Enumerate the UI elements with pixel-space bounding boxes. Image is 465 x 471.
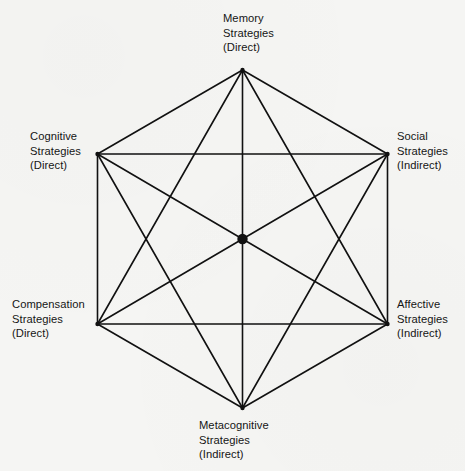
- vertex-label-compensation-line2: Strategies: [12, 312, 85, 327]
- vertex-label-social-line1: Social: [397, 129, 448, 144]
- vertex-node-compensation: [95, 322, 99, 326]
- vertex-node-affective: [385, 322, 389, 326]
- vertex-label-compensation-line1: Compensation: [12, 297, 85, 312]
- vertex-label-memory: Memory Strategies (Direct): [223, 11, 274, 55]
- vertex-label-metacognitive-line3: (Indirect): [199, 447, 269, 462]
- vertex-label-cognitive-line1: Cognitive: [30, 129, 81, 144]
- hexagon-graph-svg: [0, 0, 465, 471]
- edge-memory-social: [243, 70, 388, 154]
- vertex-label-compensation: Compensation Strategies (Direct): [12, 297, 85, 341]
- vertex-label-affective: Affective Strategies (Indirect): [397, 297, 448, 341]
- vertex-node-metacognitive: [240, 406, 244, 410]
- vertex-label-memory-line3: (Direct): [223, 40, 274, 55]
- vertex-label-cognitive-line3: (Direct): [30, 158, 81, 173]
- edge-cognitive-memory: [98, 70, 243, 154]
- vertex-label-affective-line3: (Indirect): [397, 326, 448, 341]
- edge-metacognitive-cognitive: [98, 154, 243, 408]
- center-node-dot: [237, 234, 247, 244]
- vertex-node-memory: [240, 68, 244, 72]
- vertex-label-metacognitive: Metacognitive Strategies (Indirect): [199, 418, 269, 462]
- edge-metacognitive-compensation: [98, 324, 243, 408]
- vertex-node-social: [385, 152, 389, 156]
- hexagon-diagram: Memory Strategies (Direct) Social Strate…: [0, 0, 465, 471]
- vertex-label-social-line3: (Indirect): [397, 158, 448, 173]
- vertex-label-cognitive: Cognitive Strategies (Direct): [30, 129, 81, 173]
- vertex-label-memory-line1: Memory: [223, 11, 274, 26]
- vertex-label-metacognitive-line1: Metacognitive: [199, 418, 269, 433]
- vertex-label-social: Social Strategies (Indirect): [397, 129, 448, 173]
- vertex-label-compensation-line3: (Direct): [12, 326, 85, 341]
- vertex-label-cognitive-line2: Strategies: [30, 144, 81, 159]
- vertex-label-social-line2: Strategies: [397, 144, 448, 159]
- vertex-label-affective-line2: Strategies: [397, 312, 448, 327]
- vertex-node-cognitive: [95, 152, 99, 156]
- vertex-label-memory-line2: Strategies: [223, 26, 274, 41]
- edge-affective-metacognitive: [243, 324, 388, 408]
- vertex-label-metacognitive-line2: Strategies: [199, 433, 269, 448]
- vertex-label-affective-line1: Affective: [397, 297, 448, 312]
